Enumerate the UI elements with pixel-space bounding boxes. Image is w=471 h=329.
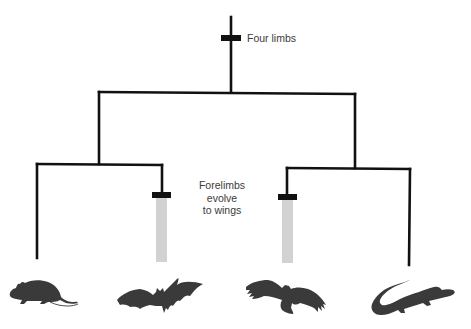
bat-wing-bar: [156, 197, 167, 262]
bird-silhouette-icon: [246, 280, 326, 314]
four-limbs-trait-mark: [221, 35, 241, 41]
main-split: [99, 92, 355, 94]
crocodile-silhouette-icon: [371, 280, 454, 315]
right-clade-split: [287, 168, 410, 169]
wings-label-line-1: Forelimbs: [189, 179, 255, 192]
bird-wing-bar: [282, 199, 293, 263]
left-clade-split: [37, 164, 162, 165]
tree-branches: [37, 17, 410, 265]
wings-trait-label: Forelimbs evolve to wings: [189, 179, 255, 217]
mouse-silhouette-icon: [10, 280, 78, 306]
cladogram: [0, 0, 471, 329]
four-limbs-label: Four limbs: [247, 32, 296, 45]
bird-wings-trait-mark: [278, 194, 297, 200]
crocodile-branch: [409, 169, 410, 265]
wings-label-line-3: to wings: [189, 204, 255, 217]
bat-wings-trait-mark: [152, 192, 171, 198]
bat-silhouette-icon: [117, 278, 203, 313]
wings-label-line-2: evolve: [189, 192, 255, 205]
